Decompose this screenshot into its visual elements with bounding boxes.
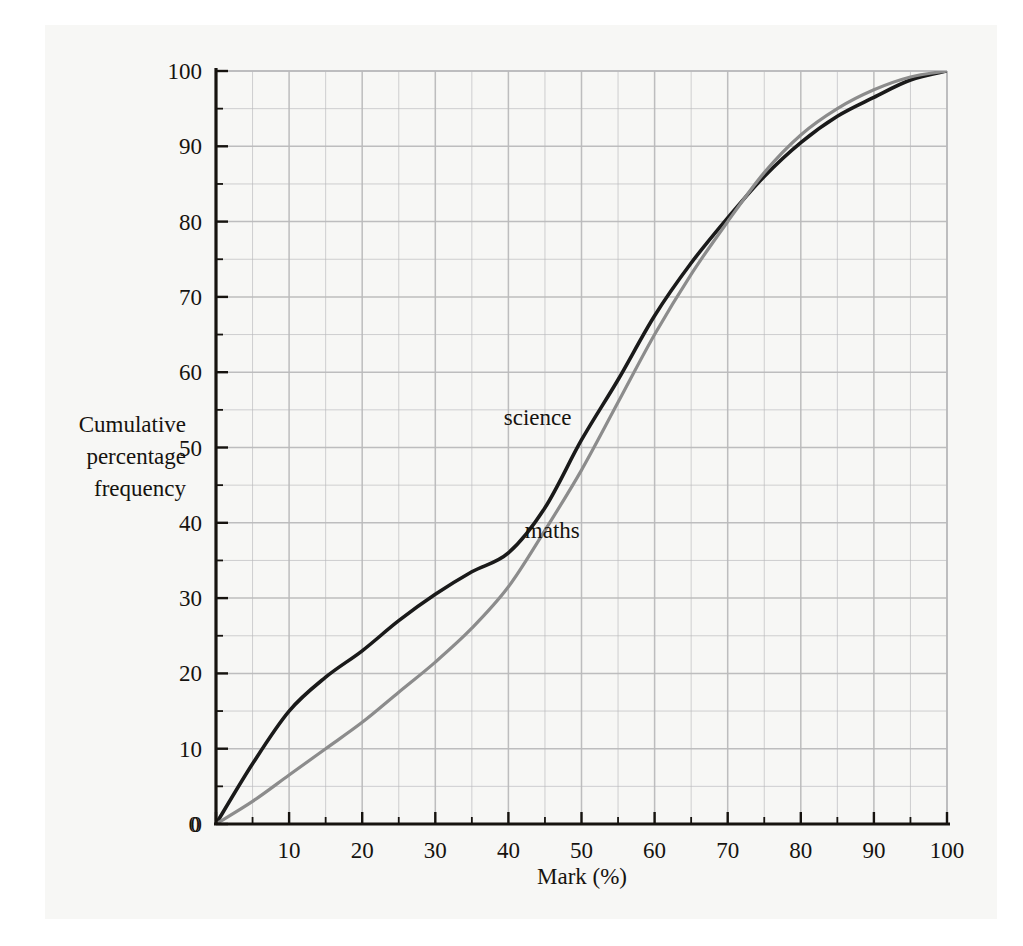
x-axis-title: Mark (%) [537,864,627,889]
x-axis-tick-label: 40 [497,838,520,863]
y-axis-title-line-1: Cumulative [79,412,186,437]
grid-layer [216,71,947,824]
x-axis-tick-label: 50 [570,838,593,863]
x-axis-tick-label: 80 [789,838,812,863]
y-axis-tick-label: 90 [179,134,202,159]
cumulative-frequency-chart: 0102030405060708090100010203040506070809… [0,0,1023,946]
series-label-science: science [504,405,572,430]
y-axis-tick-label: 60 [179,360,202,385]
y-axis-title-line-2: percentage [86,444,186,469]
x-axis-tick-label: 0 [189,812,201,837]
y-axis-tick-label: 30 [179,586,202,611]
series-label-maths: maths [525,518,580,543]
y-axis-title: Cumulative percentage frequency [79,412,187,501]
y-axis-title-line-3: frequency [94,476,186,501]
x-axis-tick-label: 100 [930,838,965,863]
y-axis-tick-label: 80 [179,210,202,235]
x-axis-tick-label: 90 [862,838,885,863]
y-axis-tick-label: 10 [179,737,202,762]
x-axis-tick-label: 60 [643,838,666,863]
x-axis-tick-label: 30 [424,838,447,863]
y-axis-tick-label: 70 [179,285,202,310]
y-axis-tick-label: 20 [179,661,202,686]
x-axis-tick-label: 20 [351,838,374,863]
x-axis-tick-label: 10 [278,838,301,863]
x-axis-tick-label: 70 [716,838,739,863]
y-axis-tick-label: 40 [179,511,202,536]
figure-canvas: 0102030405060708090100010203040506070809… [0,0,1023,946]
y-axis-tick-label: 100 [168,59,203,84]
